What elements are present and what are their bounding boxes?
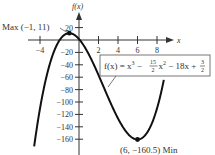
y-tick-label: −140 <box>56 123 73 132</box>
y-axis-arrow-icon <box>76 12 82 20</box>
max-label: Max (−1, 11) <box>2 22 49 32</box>
y-tick-label: −100 <box>56 98 73 107</box>
equation-text: f(x) = x3 − <box>104 60 142 71</box>
equation-prefix: f(x) = x <box>104 61 132 71</box>
equation-tail: − 18x + <box>166 61 196 71</box>
chart-svg: x f(x) −42468 20−20−40−60−80−100−120−140… <box>0 0 215 155</box>
y-tick-label: −80 <box>60 86 73 95</box>
frac1-num: 15 <box>150 59 156 65</box>
x-axis-label: x <box>176 36 181 45</box>
frac2-num: 3 <box>201 59 204 65</box>
y-tick-label: −20 <box>60 48 73 57</box>
y-tick-label: −60 <box>60 73 73 82</box>
x-tick-label: −4 <box>36 46 45 55</box>
frac2-den: 2 <box>201 67 204 73</box>
y-tick-label: −40 <box>60 61 73 70</box>
x-tick-label: 6 <box>136 46 140 55</box>
equation-mid: − <box>135 61 142 71</box>
min-label: (6, −160.5) Min <box>120 145 178 155</box>
y-axis-label: f(x) <box>72 2 83 11</box>
min-point <box>135 137 140 142</box>
max-point <box>67 31 72 36</box>
frac1-den: 2 <box>152 67 155 73</box>
x-axis-arrow-icon <box>166 37 174 43</box>
equation-leader-line <box>108 76 116 87</box>
x-tick-label: 4 <box>116 46 120 55</box>
x-tick-label: 2 <box>97 46 101 55</box>
y-tick-label: −160 <box>56 135 73 144</box>
x-tick-label: 8 <box>155 46 159 55</box>
chart-figure: x f(x) −42468 20−20−40−60−80−100−120−140… <box>0 0 215 155</box>
y-tick-label: −120 <box>56 110 73 119</box>
